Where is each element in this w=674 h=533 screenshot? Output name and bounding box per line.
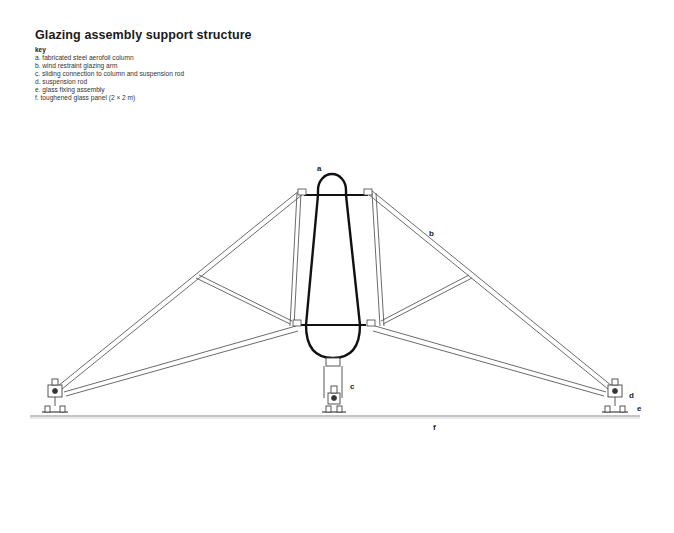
label-f: f <box>433 423 436 432</box>
glass-panel-line <box>30 416 640 418</box>
label-b: b <box>429 229 434 238</box>
left-suspension-fixing <box>42 379 68 412</box>
column-brackets <box>293 189 375 326</box>
label-d: d <box>629 391 634 400</box>
sliding-connection <box>322 358 346 412</box>
label-a: a <box>317 164 322 173</box>
aerofoil-column <box>300 174 368 358</box>
label-c: c <box>350 382 355 391</box>
support-structure-drawing: a b c d e f <box>0 0 674 533</box>
right-suspension-fixing <box>602 379 628 412</box>
right-glazing-arm <box>368 190 612 396</box>
label-e: e <box>637 404 642 413</box>
left-glazing-arm <box>58 190 303 396</box>
